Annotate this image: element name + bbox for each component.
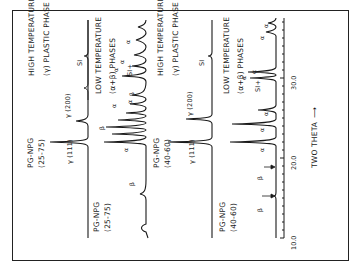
trace-1 [50, 20, 88, 238]
peak-label-beta-4b: β [256, 176, 263, 180]
peak-label-beta-2a: β [128, 182, 135, 186]
peak-label-beta-2c: β [128, 92, 135, 96]
peak-label-alpha-2d: α [112, 68, 119, 72]
peak-label-alpha-4b: α [258, 128, 265, 132]
peak-label-alpha-2a: α [122, 148, 129, 152]
peak-label-g200-1: γ (200) [64, 93, 72, 118]
peak-label-alpha-2c: α [126, 100, 133, 104]
two-theta-axis [280, 18, 284, 238]
sample-label-4: PG-NPG [218, 202, 227, 232]
peak-label-alpha-4f: α [258, 36, 265, 40]
brace-1 [84, 20, 88, 100]
phase-label-1b: (γ) PLASTIC PHASE [42, 2, 51, 76]
xrd-figure: PG-NPG (25-75) HIGH TEMPERATURE (γ) PLAS… [0, 0, 353, 273]
peak-label-beta-2b: β [98, 126, 105, 130]
peak-label-alpha-2b: α [110, 104, 117, 108]
beta-arrow-head-1 [271, 194, 275, 198]
phase-label-3a: HIGH TEMPERATURE [156, 0, 165, 76]
peak-label-alpha-4g: α [262, 24, 269, 28]
phase-label-4a: LOW TEMPERATURE [222, 17, 231, 94]
sample-label-2: PG-NPG [92, 202, 101, 232]
peak-label-alpha-2e: α [118, 60, 125, 64]
phase-label-2b: (α+β) PHASES [108, 38, 117, 94]
phase-label-1a: HIGH TEMPERATURE [27, 0, 36, 76]
ratio-label-4: (40-60) [229, 203, 238, 232]
peak-label-g111-1: γ (111) [66, 139, 74, 164]
sample-label-1: PG-NPG [26, 138, 35, 168]
peak-label-alpha-4e: α [250, 70, 257, 74]
ratio-label-2: (25-75) [103, 203, 112, 232]
beta-arrow-head-2 [271, 165, 275, 169]
tick-label-30: 30.0 [290, 76, 298, 90]
phase-label-4b: (α+β) PHASES [236, 38, 245, 94]
peak-label-beta-4a: β [256, 208, 263, 212]
peak-label-alpha-4a: α [258, 148, 265, 152]
ratio-label-1: (25-75) [37, 139, 46, 168]
peak-label-si-2: SI+ [126, 64, 134, 76]
peak-label-si-3: SI [198, 60, 206, 66]
peak-label-si-1: SI [76, 60, 84, 66]
sample-label-3: PG-NPG [152, 138, 161, 168]
peak-label-alpha-4c: α [262, 112, 269, 116]
ratio-label-3: (40-60) [163, 139, 172, 168]
axis-arrow-icon: ⟶ [310, 107, 319, 118]
tick-label-10: 10.0 [290, 236, 298, 250]
peak-label-g111-3: γ (111) [188, 139, 196, 164]
phase-label-3b: (γ) PLASTIC PHASE [171, 2, 180, 76]
peak-label-si-4: SI+ [254, 80, 262, 92]
peak-label-alpha-2f: α [124, 40, 131, 44]
tick-label-20: 20.0 [290, 156, 298, 170]
peak-label-alpha-4d: α [240, 76, 247, 80]
axis-title: TWO THETA [310, 122, 319, 168]
peak-label-g200-3: γ (200) [186, 91, 194, 116]
phase-label-2a: LOW TEMPERATURE [94, 17, 103, 94]
